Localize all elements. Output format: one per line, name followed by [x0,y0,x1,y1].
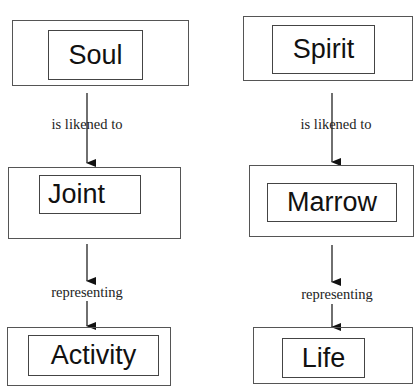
node-marrow: Marrow [267,183,397,222]
node-life-label: Life [302,345,346,372]
node-soul: Soul [48,30,143,80]
edge-label-soul-joint: is likened to [52,116,123,133]
node-spirit-label: Spirit [293,36,355,63]
node-joint: Joint [39,175,141,214]
node-soul-label: Soul [68,42,122,69]
edge-label-marrow-life: representing [301,286,373,303]
node-marrow-label: Marrow [287,189,377,216]
node-joint-label: Joint [48,181,105,208]
node-life: Life [282,338,365,378]
node-activity-label: Activity [51,342,137,369]
node-spirit: Spirit [272,25,375,74]
edge-label-joint-activity: representing [51,284,123,301]
edge-label-spirit-marrow: is likened to [301,116,372,133]
node-activity: Activity [28,335,159,376]
